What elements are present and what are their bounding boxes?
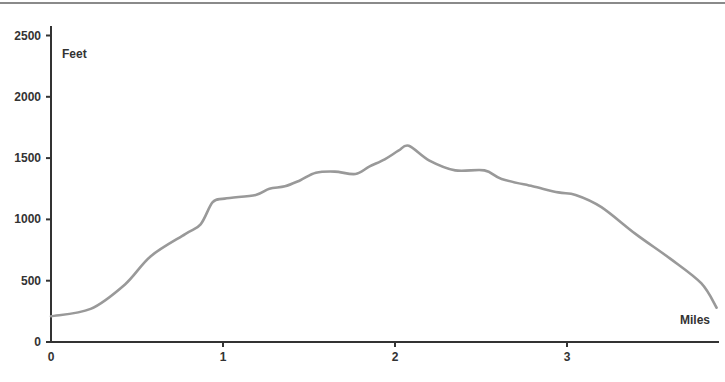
y-tick-label: 0 — [34, 335, 41, 349]
x-tick-label: 3 — [564, 350, 571, 364]
x-tick-label: 0 — [48, 350, 55, 364]
y-tick-label: 1500 — [14, 151, 41, 165]
x-axis: 0123 — [48, 342, 719, 364]
elevation-line — [51, 145, 717, 316]
y-axis-title: Feet — [62, 47, 87, 61]
y-tick-label: 2500 — [14, 29, 41, 43]
x-tick-label: 2 — [392, 350, 399, 364]
x-tick-label: 1 — [220, 350, 227, 364]
y-tick-label: 2000 — [14, 90, 41, 104]
y-tick-label: 1000 — [14, 212, 41, 226]
y-tick-label: 500 — [21, 274, 41, 288]
y-axis: 05001000150020002500 — [14, 26, 51, 349]
x-axis-title: Miles — [680, 313, 710, 327]
elevation-chart: 05001000150020002500 0123 Feet Miles — [0, 0, 725, 382]
